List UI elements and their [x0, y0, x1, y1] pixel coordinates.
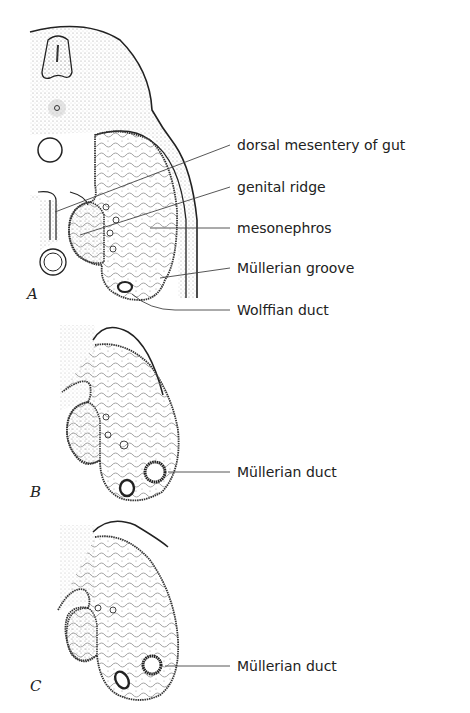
panel-a-drawing [30, 27, 230, 310]
label-mullerian-duct-b: Müllerian duct [237, 464, 337, 480]
panel-letter-b: B [30, 483, 41, 501]
label-mullerian-duct-c: Müllerian duct [237, 658, 337, 674]
panel-c-drawing [58, 521, 230, 700]
panel-letter-c: C [30, 677, 41, 695]
label-mesonephros: mesonephros [237, 220, 332, 236]
embryo-diagram [0, 0, 470, 713]
panel-letter-a: A [27, 285, 38, 303]
label-mullerian-groove: Müllerian groove [237, 260, 354, 276]
label-dorsal-mesentery: dorsal mesentery of gut [237, 137, 405, 153]
label-wolffian-duct: Wolffian duct [237, 302, 329, 318]
panel-b-drawing [60, 325, 230, 500]
label-genital-ridge: genital ridge [237, 179, 326, 195]
